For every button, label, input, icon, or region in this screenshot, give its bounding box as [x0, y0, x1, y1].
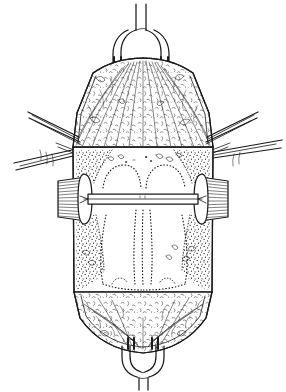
- central-panel: [70, 145, 216, 295]
- anatomical-line-drawing: [0, 0, 286, 392]
- figure-root: Ventral anatomical line drawing bilatera…: [0, 0, 286, 392]
- right-knob: [194, 174, 228, 224]
- transverse-bar: [88, 194, 198, 204]
- left-knob: [58, 174, 92, 224]
